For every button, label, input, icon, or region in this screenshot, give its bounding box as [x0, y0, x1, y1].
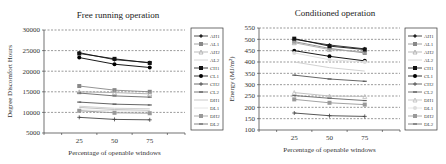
legend-label: CH1 — [424, 66, 434, 71]
legend-marker — [199, 114, 203, 118]
x-tick-label: 75 — [146, 137, 154, 145]
x-axis-label: Percentage of openable windows — [68, 149, 161, 157]
y-tick-label: 30000 — [23, 26, 41, 34]
data-point — [328, 101, 332, 105]
legend-label: DH2 — [210, 114, 220, 119]
data-point — [363, 48, 367, 52]
data-point — [363, 114, 367, 118]
y-tick-label: 450 — [245, 47, 256, 55]
legend-marker — [199, 42, 203, 46]
y-tick-label: 20000 — [23, 68, 41, 76]
series-line — [294, 75, 365, 81]
y-tick-label: 100 — [245, 126, 256, 134]
legend-label: CL2 — [424, 90, 433, 95]
data-point — [363, 60, 367, 64]
y-axis-label: Energy (MJ/m²) — [228, 56, 236, 102]
series-CH2 — [292, 111, 367, 118]
legend-label: DL2 — [424, 122, 434, 127]
legend-label: AL1 — [210, 42, 220, 47]
data-point — [77, 84, 81, 88]
y-tick-label: 25000 — [23, 47, 41, 55]
chart-1: Free running operation500010000150002000… — [6, 10, 223, 157]
x-tick-label: 75 — [361, 134, 369, 142]
legend-label: CH2 — [424, 82, 434, 87]
legend-label: DL1 — [210, 106, 220, 111]
legend: AH1AL1AH2AL2CH1CL1CH2CL2DH1DL1DH2DL2 — [405, 28, 437, 130]
legend-label: AH1 — [424, 34, 434, 39]
legend-marker — [413, 42, 417, 46]
data-point — [77, 115, 81, 119]
y-tick-label: 200 — [245, 104, 256, 112]
series-line — [294, 62, 365, 71]
data-point — [292, 37, 296, 41]
x-tick-label: 50 — [326, 134, 334, 142]
y-tick-label: 300 — [245, 81, 256, 89]
series-AL2 — [294, 62, 365, 71]
legend-label: CH2 — [210, 82, 220, 87]
y-tick-label: 550 — [245, 24, 256, 32]
y-tick-label: 250 — [245, 92, 256, 100]
series-AH2 — [77, 90, 152, 96]
data-point — [292, 97, 296, 101]
legend-label: DH1 — [424, 98, 434, 103]
data-point — [77, 51, 81, 55]
series-CH2 — [77, 115, 152, 121]
legend-label: AL1 — [424, 42, 434, 47]
legend-label: DL1 — [424, 106, 434, 111]
data-point — [328, 114, 332, 118]
legend-marker — [413, 74, 417, 78]
legend-label: CL2 — [210, 90, 219, 95]
y-tick-label: 15000 — [23, 88, 41, 96]
y-tick-label: 10000 — [23, 109, 41, 117]
legend-marker — [413, 114, 417, 118]
data-point — [113, 62, 117, 66]
chart-root: Free running operation500010000150002000… — [0, 0, 446, 164]
y-tick-label: 500 — [245, 36, 256, 44]
data-point — [292, 51, 296, 55]
series-CL2 — [77, 102, 152, 105]
legend-label: CL1 — [210, 74, 219, 79]
y-tick-label: 150 — [245, 115, 256, 123]
legend-label: CH1 — [210, 66, 220, 71]
y-axis-label: Degree Discomfort Hours — [6, 45, 14, 118]
data-point — [292, 111, 296, 115]
y-tick-label: 5000 — [26, 129, 41, 137]
data-point — [77, 56, 81, 60]
legend-marker — [413, 106, 417, 110]
data-point — [113, 111, 117, 115]
legend-label: DH1 — [210, 98, 220, 103]
data-point — [148, 61, 152, 65]
legend-marker — [199, 74, 203, 78]
series-CL2 — [292, 75, 367, 81]
x-tick-label: 25 — [76, 137, 84, 145]
x-tick-label: 25 — [291, 134, 299, 142]
legend-label: DL2 — [210, 122, 220, 127]
legend-label: AH1 — [210, 34, 220, 39]
x-tick-label: 50 — [111, 137, 119, 145]
legend-label: AL2 — [424, 58, 434, 63]
chart-title: Conditioned operation — [295, 8, 376, 18]
legend-label: AL2 — [210, 58, 220, 63]
data-point — [113, 57, 117, 61]
data-point — [328, 58, 332, 62]
legend-label: AH2 — [210, 50, 220, 55]
data-point — [148, 111, 152, 115]
data-point — [113, 117, 117, 121]
chart-2: Conditioned operation1001502002503003504… — [228, 8, 437, 154]
legend-marker — [199, 66, 203, 70]
x-axis-label: Percentage of openable windows — [283, 146, 376, 154]
y-tick-label: 350 — [245, 70, 256, 78]
chart-title: Free running operation — [77, 10, 160, 20]
data-point — [148, 65, 152, 69]
data-point — [363, 103, 367, 107]
legend-label: AH2 — [424, 50, 434, 55]
data-point — [148, 118, 152, 122]
legend-label: CL1 — [424, 74, 433, 79]
legend: AH1AL1AH2AL2CH1CL1CH2CL2DH1DL1DH2DL2 — [191, 28, 223, 130]
legend-marker — [413, 66, 417, 70]
series-DH1 — [292, 91, 367, 99]
data-point — [77, 109, 81, 113]
legend-label: DH2 — [424, 114, 434, 119]
data-point — [328, 44, 332, 48]
y-tick-label: 400 — [245, 58, 256, 66]
